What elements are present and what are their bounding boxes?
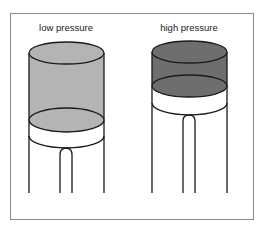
high-pressure-cylinder — [152, 41, 227, 193]
low-pressure-cylinder — [29, 42, 104, 193]
cylinders-illustration — [0, 0, 264, 227]
